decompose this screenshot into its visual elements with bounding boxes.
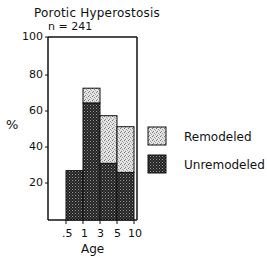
bars: [66, 88, 134, 220]
y-tick-40: 40: [29, 140, 43, 153]
bar-remodeled-1: [83, 88, 100, 103]
y-tick-100: 100: [22, 30, 43, 43]
bar-remodeled-3: [117, 127, 134, 173]
bar-unremodeled-1: [83, 103, 100, 220]
bar-unremodeled-0: [66, 171, 83, 220]
x-axis-label: Age: [81, 242, 104, 256]
y-tick-20: 20: [29, 176, 43, 189]
legend-label-remodeled: Remodeled: [184, 130, 252, 144]
bar-unremodeled-3: [117, 172, 134, 220]
x-tick-3: 5: [114, 227, 121, 240]
y-tick-80: 80: [29, 68, 43, 81]
legend-label-unremodeled: Unremodeled: [184, 158, 265, 172]
legend-swatch-remodeled: [148, 127, 166, 145]
legend-swatch-unremodeled: [148, 155, 166, 173]
y-axis-label: %: [6, 117, 18, 132]
x-tick-1: 1: [81, 227, 88, 240]
x-tick-4: 10: [128, 227, 142, 240]
bar-remodeled-2: [100, 116, 117, 164]
x-tick-2: 3: [97, 227, 104, 240]
y-tick-60: 60: [29, 104, 43, 117]
x-tick-0: .5: [62, 227, 73, 240]
bar-unremodeled-2: [100, 163, 117, 220]
